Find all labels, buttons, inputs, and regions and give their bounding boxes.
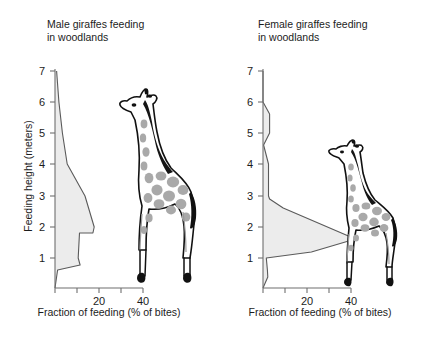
male-xlabel-40: 40 <box>137 295 149 307</box>
female-ylabel-3: 3 <box>247 190 253 202</box>
male-ylabel-3: 3 <box>39 190 45 202</box>
female-ylabel-4: 4 <box>247 158 253 170</box>
male-giraffe-illustration <box>113 86 213 294</box>
panel-male: Male giraffes feeding in woodlands Feedi… <box>0 0 215 346</box>
female-ylabel-7: 7 <box>247 65 253 77</box>
male-curve <box>55 71 94 288</box>
male-ylabel-7: 7 <box>39 65 45 77</box>
female-ylabel-2: 2 <box>247 221 253 233</box>
female-xlabel-20: 20 <box>301 295 313 307</box>
male-ylabel-5: 5 <box>39 127 45 139</box>
giraffe-feeding-figure: Male giraffes feeding in woodlands Feedi… <box>0 0 429 346</box>
giraffe-figure <box>329 140 397 287</box>
male-ylabel-2: 2 <box>39 221 45 233</box>
female-ylabel-1: 1 <box>247 252 253 264</box>
female-xlabel-40: 40 <box>345 295 357 307</box>
panel-female: Female giraffes feeding in woodlands Fra… <box>215 0 429 346</box>
male-curve-fill <box>55 71 94 288</box>
giraffe-figure <box>120 89 196 283</box>
female-ylabel-6: 6 <box>247 96 253 108</box>
male-ylabel-6: 6 <box>39 96 45 108</box>
male-xlabel-20: 20 <box>93 295 105 307</box>
male-ylabel-1: 1 <box>39 252 45 264</box>
female-ylabel-5: 5 <box>247 127 253 139</box>
female-giraffe-illustration <box>323 138 415 294</box>
male-ylabel-4: 4 <box>39 158 45 170</box>
